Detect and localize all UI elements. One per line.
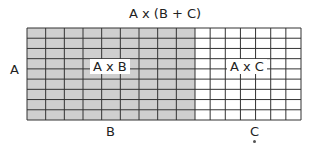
area-model-grid — [0, 0, 311, 153]
bottom-label-b: B — [106, 124, 115, 139]
dot-mark — [253, 140, 256, 143]
side-label-a: A — [10, 62, 19, 77]
bottom-label-c: C — [250, 124, 259, 139]
title-label: A x (B + C) — [129, 6, 201, 21]
region-label-ab: A x B — [90, 59, 130, 74]
region-label-ac: A x C — [227, 59, 267, 74]
